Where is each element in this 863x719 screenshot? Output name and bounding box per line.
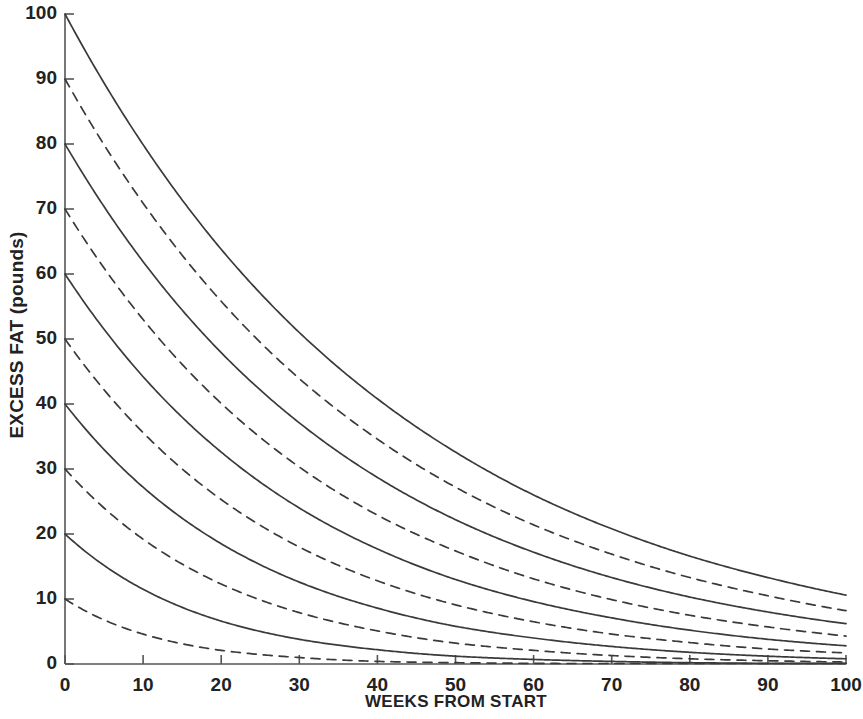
curve-30-dashed	[65, 469, 846, 662]
x-tick-label: 30	[269, 674, 329, 696]
x-tick-label: 100	[816, 674, 863, 696]
curve-40-solid	[65, 404, 846, 659]
y-tick-label: 80	[9, 132, 57, 154]
x-tick-label: 60	[504, 674, 564, 696]
y-tick-label: 100	[9, 2, 57, 24]
x-tick-label: 10	[113, 674, 173, 696]
y-tick-label: 30	[9, 457, 57, 479]
curve-90-dashed	[65, 79, 846, 611]
curve-series-group	[65, 14, 846, 663]
x-tick-label: 40	[347, 674, 407, 696]
plot-area	[0, 0, 863, 719]
y-tick-label: 20	[9, 522, 57, 544]
y-tick-label: 90	[9, 67, 57, 89]
curve-60-solid	[65, 274, 846, 646]
y-tick-label: 40	[9, 392, 57, 414]
y-tick-label: 0	[9, 652, 57, 674]
x-tick-label: 50	[426, 674, 486, 696]
curve-100-solid	[65, 14, 846, 595]
curve-70-dashed	[65, 209, 846, 636]
y-tick-label: 60	[9, 262, 57, 284]
x-tick-label: 70	[582, 674, 642, 696]
x-tick-label: 90	[738, 674, 798, 696]
x-tick-label: 0	[35, 674, 95, 696]
fat-loss-chart-figure: EXCESS FAT (pounds) WEEKS FROM START 010…	[0, 0, 863, 719]
x-tick-label: 80	[660, 674, 720, 696]
x-tick-label: 20	[191, 674, 251, 696]
y-tick-label: 50	[9, 327, 57, 349]
axes	[65, 14, 846, 664]
y-tick-label: 70	[9, 197, 57, 219]
y-tick-label: 10	[9, 587, 57, 609]
